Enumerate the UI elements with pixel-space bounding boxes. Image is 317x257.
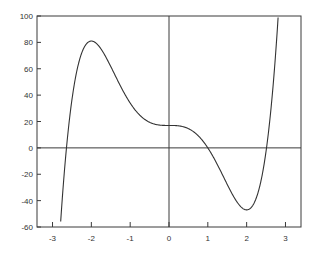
y-tick-label: 0 [29, 144, 34, 153]
x-tick-label: 3 [283, 234, 288, 243]
y-tick-label: -60 [21, 223, 33, 232]
y-tick-label: -40 [21, 197, 33, 206]
x-tick-label: 2 [244, 234, 249, 243]
x-tick-label: -1 [127, 234, 135, 243]
y-axis-ticks: -60-40-20020406080100 [20, 12, 41, 232]
y-tick-label: 20 [24, 118, 33, 127]
x-tick-label: -2 [88, 234, 96, 243]
y-tick-label: 80 [24, 38, 33, 47]
y-tick-label: 40 [24, 91, 33, 100]
x-tick-label: 1 [206, 234, 211, 243]
y-tick-label: 60 [24, 65, 33, 74]
x-tick-label: -3 [49, 234, 57, 243]
chart: -3-2-10123 -60-40-20020406080100 [0, 0, 317, 257]
x-tick-label: 0 [167, 234, 172, 243]
x-axis-ticks: -3-2-10123 [49, 222, 288, 243]
y-tick-label: -20 [21, 170, 33, 179]
reference-lines [37, 16, 301, 227]
y-tick-label: 100 [20, 12, 34, 21]
